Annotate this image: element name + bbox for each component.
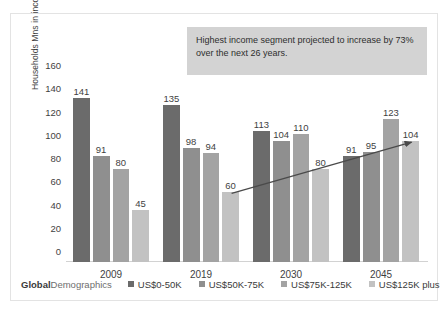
legend-swatch-icon [128, 281, 134, 287]
y-axis-tick: 60 [50, 176, 61, 187]
bar-group: 113104110802030 [246, 76, 336, 262]
bar-slot: 104 [273, 76, 290, 262]
bar-us-0-50k[interactable]: 91 [343, 156, 360, 262]
bar-value-label: 104 [403, 129, 419, 140]
y-axis-tick: 80 [50, 153, 61, 164]
bar-value-label: 123 [383, 107, 399, 118]
bar-value-label: 80 [315, 157, 326, 168]
bar-slot: 95 [363, 76, 380, 262]
bar-set: 141918045 [73, 76, 149, 262]
legend-label: US$125K plus [379, 279, 440, 290]
legend-item[interactable]: US$125K plus [369, 279, 440, 290]
bar-us-125k-plus[interactable]: 80 [312, 169, 329, 262]
bar-value-label: 60 [225, 180, 236, 191]
bar-value-label: 45 [135, 198, 146, 209]
bar-us-125k-plus[interactable]: 45 [132, 210, 149, 262]
legend-label: US$50K-75K [209, 279, 264, 290]
legend-item[interactable]: US$75K-125K [281, 279, 352, 290]
bar-us-125k-plus[interactable]: 60 [222, 192, 239, 262]
bar-set: 11310411080 [253, 76, 329, 262]
bar-us-0-50k[interactable]: 113 [253, 131, 270, 262]
bar-slot: 91 [93, 76, 110, 262]
bar-slot: 135 [163, 76, 180, 262]
legend-label: US$75K-125K [291, 279, 352, 290]
bar-slot: 80 [312, 76, 329, 262]
bar-value-label: 91 [96, 144, 107, 155]
bar-slot: 91 [343, 76, 360, 262]
bar-us-75k-125k[interactable]: 110 [293, 134, 310, 262]
chart-legend: GlobalDemographics US$0-50KUS$50K-75KUS$… [17, 276, 431, 292]
bar-slot: 80 [113, 76, 130, 262]
bar-slot: 110 [293, 76, 310, 262]
bar-group: 1359894602019 [156, 76, 246, 262]
bar-us-50k-75k[interactable]: 91 [93, 156, 110, 262]
legend-item[interactable]: US$0-50K [128, 279, 182, 290]
bar-us-0-50k[interactable]: 135 [163, 105, 180, 262]
legend-swatch-icon [369, 281, 375, 287]
bar-value-label: 135 [163, 93, 179, 104]
bar-slot: 98 [183, 76, 200, 262]
callout-annotation: Highest income segment projected to incr… [187, 27, 427, 75]
chart-container: Highest income segment projected to incr… [10, 13, 438, 301]
bar-group: 1419180452009 [66, 76, 156, 262]
legend-swatch-icon [199, 281, 205, 287]
bar-value-label: 94 [206, 141, 217, 152]
bar-slot: 45 [132, 76, 149, 262]
bar-slot: 123 [383, 76, 400, 262]
bar-value-label: 95 [366, 140, 377, 151]
bar-slot: 113 [253, 76, 270, 262]
bar-slot: 141 [73, 76, 90, 262]
bar-slot: 104 [402, 76, 419, 262]
y-axis-tick: 120 [45, 106, 61, 117]
y-axis-tick: 40 [50, 199, 61, 210]
bar-set: 135989460 [163, 76, 239, 262]
bar-slot: 60 [222, 76, 239, 262]
bar-groups: 1419180452009135989460201911310411080203… [66, 76, 426, 262]
bar-value-label: 80 [116, 157, 127, 168]
y-axis-tick: 100 [45, 129, 61, 140]
bar-us-75k-125k[interactable]: 123 [383, 119, 400, 262]
bar-value-label: 113 [254, 119, 269, 130]
y-axis-tick: 160 [45, 60, 61, 71]
legend-swatch-icon [281, 281, 287, 287]
y-axis-title: Households Mns in income segment [30, 0, 40, 90]
bar-value-label: 98 [186, 136, 197, 147]
bar-us-0-50k[interactable]: 141 [73, 98, 90, 262]
bar-us-75k-125k[interactable]: 80 [113, 169, 130, 262]
bar-us-50k-75k[interactable]: 104 [273, 141, 290, 262]
bar-us-50k-75k[interactable]: 95 [363, 152, 380, 262]
bar-us-50k-75k[interactable]: 98 [183, 148, 200, 262]
callout-text: Highest income segment projected to incr… [196, 35, 414, 58]
bar-us-75k-125k[interactable]: 94 [203, 153, 220, 262]
bar-slot: 94 [203, 76, 220, 262]
bar-us-125k-plus[interactable]: 104 [402, 141, 419, 262]
brand-label: GlobalDemographics [17, 279, 112, 290]
bar-set: 9195123104 [343, 76, 419, 262]
plot-area: Households Mns in income segment 0204060… [66, 76, 426, 262]
brand-light: Demographics [51, 279, 112, 290]
brand-strong: Global [21, 279, 51, 290]
bar-value-label: 91 [346, 144, 357, 155]
y-axis-tick: 140 [45, 83, 61, 94]
bar-value-label: 141 [73, 86, 89, 97]
bar-group: 91951231042045 [336, 76, 426, 262]
bar-value-label: 110 [293, 122, 308, 133]
bar-value-label: 104 [273, 129, 289, 140]
y-axis-tick: 0 [56, 246, 61, 257]
y-axis-tick: 20 [50, 222, 61, 233]
legend-label: US$0-50K [138, 279, 182, 290]
legend-item[interactable]: US$50K-75K [199, 279, 264, 290]
